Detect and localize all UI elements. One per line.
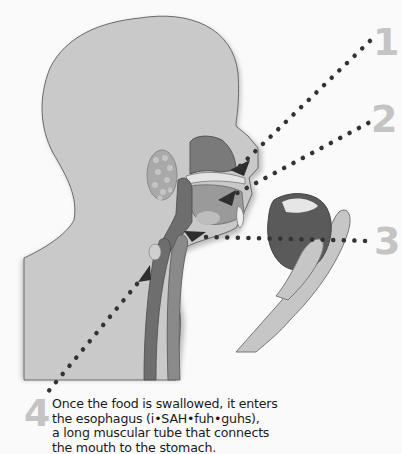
label-number-1: 1 — [373, 23, 399, 61]
caption: Once the food is swallowed, it enters th… — [52, 397, 352, 454]
caption-line-4: the mouth to the stomach. — [52, 441, 352, 454]
food-bolus — [196, 211, 220, 225]
label-number-2: 2 — [371, 100, 397, 138]
esophagus-bolus — [149, 244, 161, 260]
diagram-figure: 1 2 3 4 Once the food is swallowed, it e… — [0, 0, 402, 454]
caption-line-2: the esophagus (i•SAH•fuh•guhs), — [52, 412, 352, 427]
label-number-3: 3 — [374, 222, 400, 260]
label-number-4: 4 — [24, 394, 50, 432]
caption-line-3: a long muscular tube that connects — [52, 426, 352, 441]
caption-line-1: Once the food is swallowed, it enters — [52, 397, 352, 412]
leader-1 — [240, 39, 372, 166]
anatomy-illustration — [0, 0, 402, 454]
